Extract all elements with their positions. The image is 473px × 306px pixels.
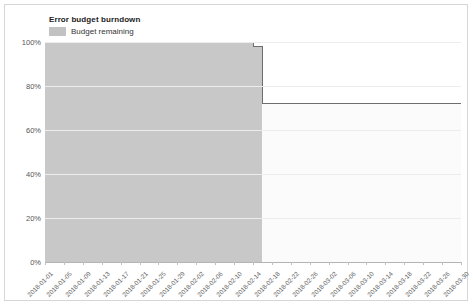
x-axis-tick-mark (253, 262, 254, 265)
x-axis-tick-mark (461, 262, 462, 265)
area-fill-before-drop (45, 42, 262, 262)
plot-area: 2018-01-012018-01-052018-01-092018-01-13… (45, 42, 461, 262)
gridline-y (45, 42, 461, 43)
x-axis-tick-mark (385, 262, 386, 265)
gridline-y (45, 218, 461, 219)
x-axis-tick-mark (234, 262, 235, 265)
chart-card: Error budget burndown Budget remaining 0… (4, 4, 468, 301)
x-axis-tick-mark (272, 262, 273, 265)
gridline-y (45, 86, 461, 87)
x-axis-tick-mark (442, 262, 443, 265)
x-axis-tick-mark (348, 262, 349, 265)
x-axis-tick-mark (366, 262, 367, 265)
y-axis-tick-label: 20% (7, 214, 41, 223)
gridline-y (45, 174, 461, 175)
y-axis-tick-label: 60% (7, 126, 41, 135)
x-axis-tick-mark (64, 262, 65, 265)
x-axis-tick-mark (177, 262, 178, 265)
area-series-budget-remaining (45, 42, 461, 262)
x-axis-tick-mark (329, 262, 330, 265)
x-axis-tick-mark (83, 262, 84, 265)
x-axis-tick-mark (45, 262, 46, 265)
x-axis-tick-mark (215, 262, 216, 265)
x-axis-tick-mark (121, 262, 122, 265)
x-axis-tick-mark (196, 262, 197, 265)
x-axis-tick-mark (291, 262, 292, 265)
y-axis-tick-label: 40% (7, 170, 41, 179)
y-axis-tick-label: 100% (7, 38, 41, 47)
x-axis-tick-mark (404, 262, 405, 265)
y-axis-tick-label: 0% (7, 258, 41, 267)
area-fill-after-drop (262, 46, 461, 262)
x-axis-tick-mark (423, 262, 424, 265)
x-axis-tick-mark (102, 262, 103, 265)
x-axis-tick-mark (158, 262, 159, 265)
legend-label-budget-remaining: Budget remaining (71, 27, 134, 36)
chart-legend: Budget remaining (49, 27, 134, 36)
x-axis-tick-mark (140, 262, 141, 265)
x-axis-tick-mark (310, 262, 311, 265)
chart-title: Error budget burndown (49, 15, 140, 24)
legend-swatch-budget-remaining (49, 27, 66, 36)
y-axis-labels: 0%20%40%60%80%100% (5, 42, 41, 262)
gridline-y (45, 130, 461, 131)
y-axis-tick-label: 80% (7, 82, 41, 91)
